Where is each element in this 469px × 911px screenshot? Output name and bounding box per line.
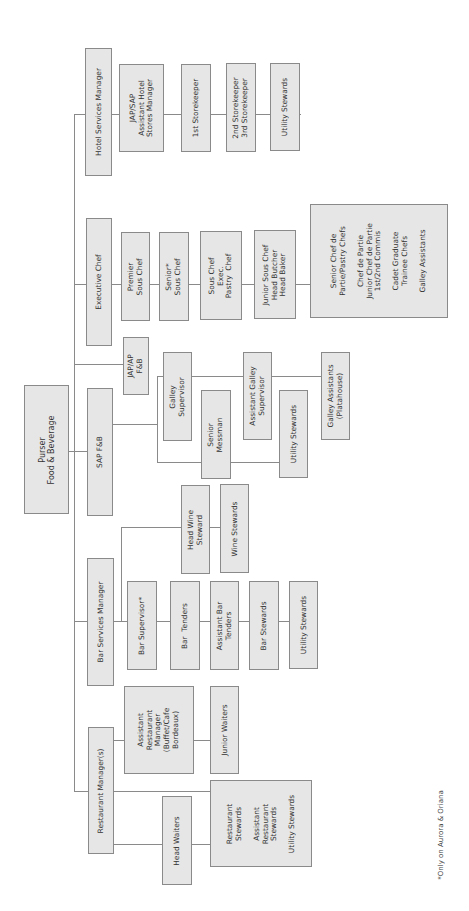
connector xyxy=(74,791,88,792)
box-label: Head Wine Steward xyxy=(187,509,204,549)
bar-stewards-box: Bar Stewards xyxy=(249,581,279,670)
box-label: Galley Assistants (Platahouse) xyxy=(327,364,344,427)
connector xyxy=(193,740,210,741)
box-label: Junior Waiters xyxy=(220,704,229,755)
assistant-galley-supervisor-box: Assistant Galley Supervisor xyxy=(243,352,272,440)
jap-ap-fb-box: JAP/AP F&B xyxy=(123,337,149,395)
footnote: *Only on Aurora & Oriana xyxy=(437,790,445,879)
junior-sous-chef-box: Junior Sous Chef Head Butcher Head Baker xyxy=(254,230,296,319)
senior-messman-box: Senior Messman xyxy=(201,390,231,479)
box-label: Senior Messman xyxy=(207,417,224,452)
box-label: Assistant Galley Supervisor xyxy=(249,366,266,425)
connector xyxy=(112,424,157,425)
box-label: Assistant Restaurant Manager (Buffet/Caf… xyxy=(137,708,181,753)
box-label: Sous Chef Exec. Pastry Chef xyxy=(208,253,234,298)
utility-stewards-hotel-box: Utility Stewards xyxy=(270,63,300,151)
box-label: 1st Storekeeper xyxy=(192,79,201,138)
connector xyxy=(157,462,201,463)
head-waiters-box: Head Waiters xyxy=(162,796,192,885)
box-label: Junior Sous Chef Head Butcher Head Baker xyxy=(262,244,288,305)
box-label: Utility Stewards xyxy=(289,405,298,463)
chef-de-partie-group-box: Senior Chef de Partie/Pastry Chefs Chef … xyxy=(310,204,448,318)
connector xyxy=(74,364,123,365)
box-label: Senior* Sous Chef xyxy=(165,258,182,295)
second-third-storekeeper-box: 2nd Storekeeper 3rd Storekeeper xyxy=(226,63,256,152)
sap-fb-box: SAP F&B xyxy=(87,388,113,516)
purser-label: Purser Food & Beverage xyxy=(37,415,56,484)
connector xyxy=(74,284,86,285)
box-label: Hotel Services Manager xyxy=(94,68,103,156)
box-label: 2nd Storekeeper 3rd Storekeeper xyxy=(232,77,249,138)
box-label: Wine Stewards xyxy=(230,501,239,556)
connector xyxy=(209,527,220,528)
box-label: Executive Chef xyxy=(95,254,104,309)
sous-chef-pastry-box: Sous Chef Exec. Pastry Chef xyxy=(200,231,242,320)
connector xyxy=(113,791,210,792)
connector xyxy=(121,527,181,528)
connector xyxy=(191,844,210,845)
box-label: Restaurant Stewards Assistant Restaurant… xyxy=(226,794,297,852)
purser-box: Purser Food & Beverage xyxy=(24,385,69,514)
connector xyxy=(157,376,158,462)
restaurant-stewards-group-box: Restaurant Stewards Assistant Restaurant… xyxy=(210,780,312,867)
box-label: Restaurant Manager(s) xyxy=(97,748,106,833)
connector xyxy=(113,844,162,845)
executive-chef-box: Executive Chef xyxy=(86,218,112,346)
box-label: Premier Sous Chef xyxy=(127,258,144,295)
premier-sous-chef-box: Premier Sous Chef xyxy=(121,232,150,321)
hotel-services-manager-box: Hotel Services Manager xyxy=(85,48,112,176)
box-label: SAP F&B xyxy=(96,436,105,468)
connector xyxy=(230,462,279,463)
box-label: Bar Tenders xyxy=(181,603,190,649)
box-label: Assistant Bar Tenders xyxy=(216,601,233,650)
bar-services-manager-box: Bar Services Manager xyxy=(87,558,114,686)
box-label: Senior Chef de Partie/Pastry Chefs Chef … xyxy=(330,223,428,299)
box-label: JAP/SAP Assistant Hotel Stores Manager xyxy=(128,79,154,137)
connector xyxy=(121,527,122,621)
restaurant-manager-box: Restaurant Manager(s) xyxy=(88,727,114,854)
connector xyxy=(74,451,87,452)
box-label: Utility Stewards xyxy=(281,78,290,136)
senior-sous-chef-box: Senior* Sous Chef xyxy=(159,232,189,321)
box-label: Bar Services Manager xyxy=(96,582,105,663)
wine-stewards-box: Wine Stewards xyxy=(220,484,249,573)
box-label: Utility Stewards xyxy=(299,596,308,654)
utility-stewards-bar-box: Utility Stewards xyxy=(289,581,318,669)
first-storekeeper-box: 1st Storekeeper xyxy=(181,64,211,152)
head-wine-steward-box: Head Wine Steward xyxy=(181,485,210,574)
box-label: Head Waiters xyxy=(173,816,182,865)
utility-stewards-galley-box: Utility Stewards xyxy=(279,390,308,478)
bar-supervisor-box: Bar Supervisor* xyxy=(127,581,157,670)
connector xyxy=(74,621,87,622)
box-label: Bar Stewards xyxy=(260,601,269,650)
assistant-bar-tenders-box: Assistant Bar Tenders xyxy=(210,581,239,670)
box-label: JAP/AP F&B xyxy=(127,354,144,378)
junior-waiters-box: Junior Waiters xyxy=(210,686,239,774)
bar-tenders-box: Bar Tenders xyxy=(170,581,200,670)
galley-assistants-platahouse-box: Galley Assistants (Platahouse) xyxy=(321,352,350,440)
assistant-restaurant-manager-box: Assistant Restaurant Manager (Buffet/Caf… xyxy=(124,686,194,774)
box-label: Bar Supervisor* xyxy=(138,596,147,654)
galley-supervisor-box: Galley Supervisor xyxy=(163,352,192,441)
box-label: Galley Supervisor xyxy=(169,377,186,417)
connector xyxy=(113,740,124,741)
assistant-hotel-stores-manager-box: JAP/SAP Assistant Hotel Stores Manager xyxy=(119,64,164,152)
main-spine xyxy=(74,114,75,792)
